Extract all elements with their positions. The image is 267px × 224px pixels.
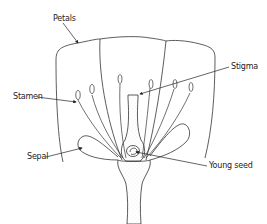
label-young-seed: Young seed	[209, 162, 253, 170]
flower-illustration	[0, 0, 267, 224]
label-sepal: Sepal	[27, 153, 48, 161]
label-stamen: Stamen	[13, 93, 43, 101]
label-stigma: Stigma	[231, 63, 258, 71]
petals-leader	[63, 23, 78, 43]
label-petals: Petals	[53, 15, 76, 23]
flower-diagram: Petals Stigma Stamen Sepal Young seed	[0, 0, 267, 224]
sepal-leader	[46, 148, 82, 157]
pistil	[121, 95, 144, 161]
stigma-leader	[140, 67, 229, 94]
receptacle-stalk	[118, 160, 151, 224]
